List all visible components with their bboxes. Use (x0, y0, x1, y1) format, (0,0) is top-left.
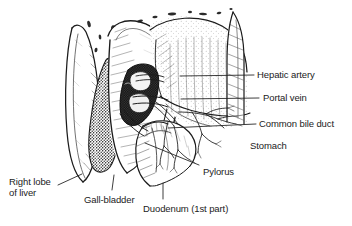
label-stomach: Stomach (250, 140, 287, 151)
label-duodenum-1st-part: Duodenum (1st part) (143, 203, 228, 214)
anatomy-figure: Hepatic artery Portal vein Common bile d… (0, 0, 352, 226)
leader-right-lobe-of-liver (58, 174, 82, 185)
label-right-lobe-of-liver: Right lobe of liver (9, 176, 51, 198)
leader-gall-bladder (112, 175, 114, 190)
label-portal-vein: Portal vein (263, 92, 307, 103)
label-common-bile-duct: Common bile duct (259, 118, 334, 129)
label-pylorus: Pylorus (203, 166, 234, 177)
label-hepatic-artery: Hepatic artery (257, 69, 315, 80)
anatomy-illustration (0, 0, 352, 226)
label-gall-bladder: Gall-bladder (84, 194, 135, 205)
